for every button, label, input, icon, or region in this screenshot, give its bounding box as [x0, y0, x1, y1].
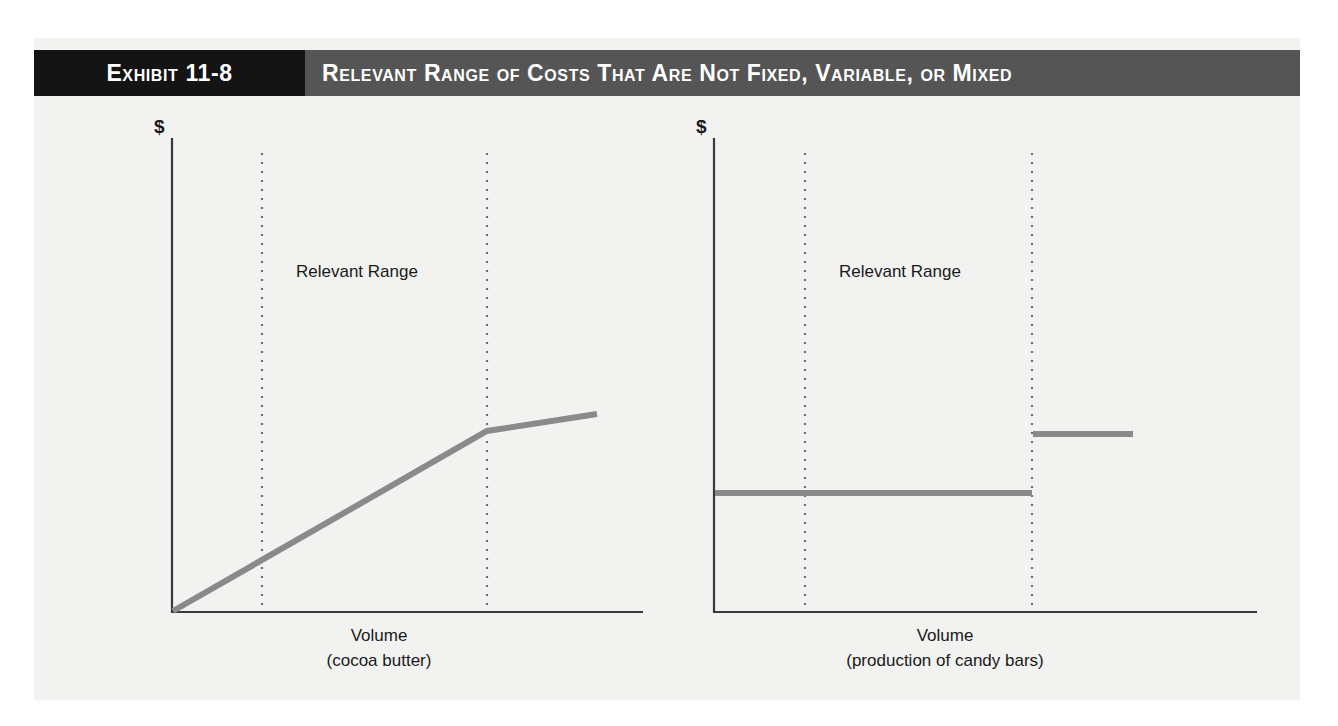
exhibit-header: Exhibit 11-8 Relevant Range of Costs Tha… — [34, 50, 1300, 96]
x-axis-caption: Volume (cocoa butter) — [299, 624, 459, 673]
chart-candy-bars: $ Relevant Range Volume (production of c… — [667, 96, 1300, 700]
x-axis-caption-main: Volume — [917, 626, 974, 645]
cost-line — [173, 414, 597, 611]
exhibit-title: Relevant Range of Costs That Are Not Fix… — [322, 60, 1012, 87]
chart-candy-bars-graphic — [667, 96, 1300, 700]
relevant-range-annotation: Relevant Range — [296, 262, 418, 282]
chart-cocoa-butter-graphic — [34, 96, 667, 700]
x-axis-caption-main: Volume — [351, 626, 408, 645]
x-axis-caption: Volume (production of candy bars) — [815, 624, 1075, 673]
relevant-range-annotation: Relevant Range — [839, 262, 961, 282]
chart-cocoa-butter: $ Relevant Range Volume (cocoa butter) — [34, 96, 667, 700]
x-axis-caption-sub: (production of candy bars) — [815, 649, 1075, 674]
y-axis-label-dollar: $ — [696, 116, 707, 138]
exhibit-number-label: Exhibit 11-8 — [106, 60, 232, 87]
x-axis-caption-sub: (cocoa butter) — [299, 649, 459, 674]
charts-area: $ Relevant Range Volume (cocoa butter) $… — [34, 96, 1300, 700]
exhibit-title-block: Relevant Range of Costs That Are Not Fix… — [305, 50, 1300, 96]
y-axis-label-dollar: $ — [154, 116, 165, 138]
exhibit-number-block: Exhibit 11-8 — [34, 50, 305, 96]
